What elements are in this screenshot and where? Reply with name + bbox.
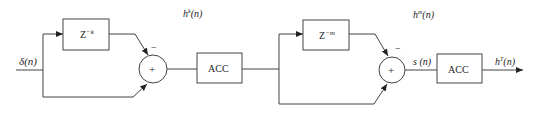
minus-sign-2: − [395, 43, 401, 54]
minus-sign-1: − [151, 42, 157, 53]
input-label: δ(n) [19, 55, 37, 68]
acc-label-2: ACC [448, 64, 469, 75]
delay-m-to-sum [349, 34, 388, 56]
direct-path-2 [279, 84, 387, 104]
hk-label: hk(n) [183, 8, 203, 20]
direct-path-1 [43, 84, 147, 97]
s-label: s (n) [413, 56, 432, 68]
delay-k-to-sum [109, 34, 148, 55]
delay-k-label: Z−k [80, 28, 95, 40]
delay-m-label: Z−m [319, 29, 335, 41]
hm-label: hm(n) [413, 9, 435, 21]
ht-label: hT(n) [495, 56, 516, 68]
acc-label-1: ACC [208, 63, 229, 74]
plus-sign-1: + [149, 63, 155, 75]
plus-sign-2: + [388, 64, 394, 76]
block-diagram: δ(n) Z−k − + ACC hk(n) Z−m − + s (n) ACC… [0, 0, 534, 115]
